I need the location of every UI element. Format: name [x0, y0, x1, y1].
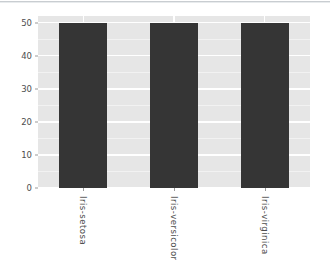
y-tick-label: 0: [27, 184, 32, 193]
x-tick-label: Iris-versicolor: [170, 196, 179, 261]
y-axis: 01020304050: [0, 16, 38, 188]
bar-chart-figure: 01020304050 Iris-setosaIris-versicolorIr…: [0, 0, 330, 278]
bar[interactable]: [59, 23, 107, 188]
x-axis: Iris-setosaIris-versicolorIris-virginica: [38, 188, 310, 278]
bar[interactable]: [241, 23, 289, 188]
x-tick-mark: [174, 188, 175, 191]
y-tick-label: 50: [21, 18, 32, 27]
bar[interactable]: [150, 23, 198, 188]
y-tick-label: 40: [21, 51, 32, 60]
x-tick-label: Iris-virginica: [260, 196, 269, 255]
x-tick-mark: [265, 188, 266, 191]
plot-panel: [38, 16, 310, 188]
x-tick-label: Iris-setosa: [79, 196, 88, 245]
y-tick-label: 20: [21, 118, 32, 127]
x-tick-mark: [83, 188, 84, 191]
y-tick-label: 10: [21, 151, 32, 160]
y-tick-label: 30: [21, 85, 32, 94]
top-separator-rule-shadow: [0, 2, 330, 3]
